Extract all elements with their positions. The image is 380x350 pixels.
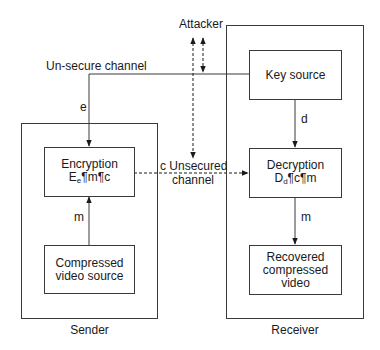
- key-e-label: e: [80, 101, 87, 114]
- receiver-label: Receiver: [226, 324, 364, 337]
- recovered-line2: compressed: [263, 264, 328, 277]
- compressed-source-line1: Compressed: [55, 257, 123, 270]
- compressed-video-source-block: Compressed video source: [44, 245, 135, 294]
- attacker-label: Attacker: [179, 18, 223, 31]
- cipher-channel-label-1: c Unsecured: [160, 160, 226, 173]
- unsecure-channel-label: Un-secure channel: [46, 60, 147, 73]
- key-source-block: Key source: [249, 50, 342, 100]
- decryption-formula: Dd¶c¶m: [274, 172, 316, 188]
- key-source-label: Key source: [265, 69, 325, 82]
- recovered-line1: Recovered: [266, 251, 324, 264]
- key-d-label: d: [301, 113, 308, 126]
- encryption-block: Encryption Ee¶m¶c: [44, 147, 135, 197]
- recovered-line3: video: [281, 277, 310, 290]
- recovered-video-block: Recovered compressed video: [249, 245, 342, 295]
- msg-sender-label: m: [74, 211, 84, 224]
- decryption-block: Decryption Dd¶c¶m: [249, 148, 342, 198]
- msg-receiver-label: m: [301, 211, 311, 224]
- sender-label: Sender: [21, 324, 158, 337]
- compressed-source-line2: video source: [55, 270, 123, 283]
- cipher-channel-label-2: channel: [160, 174, 226, 187]
- encryption-formula: Ee¶m¶c: [69, 171, 110, 187]
